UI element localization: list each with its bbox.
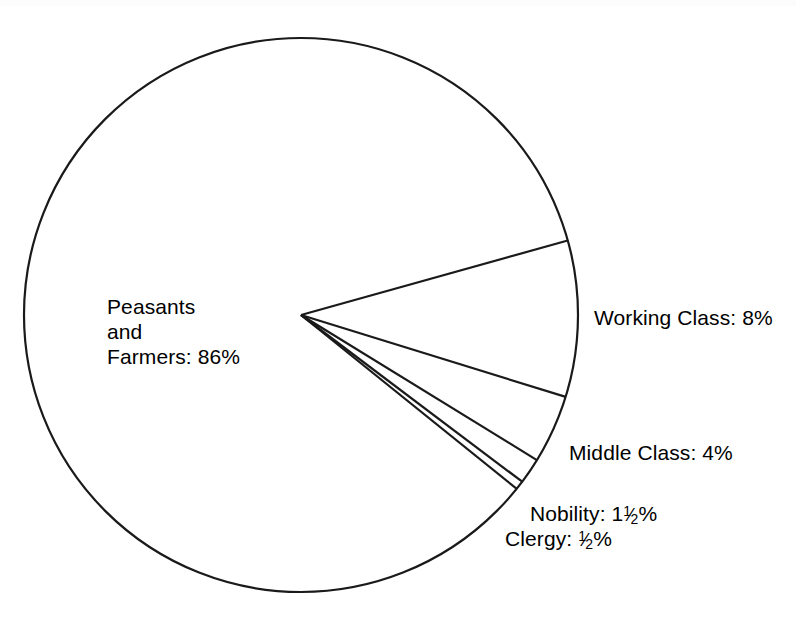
fraction-denominator: 2 [630, 511, 638, 527]
slice-label-peasants-line1: Peasants [107, 294, 240, 319]
slice-label-nobility-fraction: 1⁄2 [623, 501, 638, 529]
slice-label-peasants-line3: Farmers: 86% [107, 344, 240, 369]
slice-label-working-class: Working Class: 8% [594, 305, 773, 330]
slice-label-nobility-name: Nobility: [530, 502, 612, 525]
slice-label-nobility-whole: 1 [612, 502, 624, 525]
slice-label-clergy: Clergy: 1⁄2% [505, 526, 612, 554]
slice-label-clergy-name: Clergy: [505, 527, 578, 550]
slice-label-peasants-line2: and [107, 319, 240, 344]
slice-label-nobility-percent: % [638, 502, 657, 525]
slice-label-nobility: Nobility: 11⁄2% [530, 501, 657, 529]
slice-label-clergy-percent: % [593, 527, 612, 550]
pie-chart-page: Peasants and Farmers: 86% Working Class:… [0, 0, 796, 632]
fraction-denominator: 2 [585, 536, 593, 552]
slice-label-middle-class: Middle Class: 4% [569, 440, 733, 465]
slice-label-clergy-fraction: 1⁄2 [578, 526, 593, 554]
slice-label-peasants-and-farmers: Peasants and Farmers: 86% [107, 294, 240, 369]
